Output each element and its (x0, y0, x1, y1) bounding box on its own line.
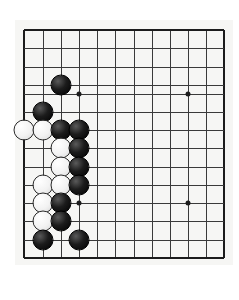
go-board-grid[interactable] (15, 20, 233, 265)
white-stone[interactable] (14, 120, 35, 141)
caption-row: 问题 99 (0, 262, 239, 300)
board-line-vertical-10 (188, 30, 189, 258)
board-line-horizontal-3 (24, 67, 224, 68)
black-stone[interactable] (51, 75, 72, 96)
go-board-panel[interactable] (15, 20, 233, 265)
board-line-vertical-12 (223, 30, 225, 258)
board-line-vertical-5 (97, 30, 98, 258)
black-stone[interactable] (69, 138, 90, 159)
board-line-horizontal-13 (24, 240, 224, 241)
black-stone[interactable] (69, 175, 90, 196)
board-line-horizontal-2 (24, 48, 224, 49)
star-point-lower-right (186, 201, 191, 206)
board-line-vertical-11 (206, 30, 207, 258)
star-point-upper-right (186, 92, 191, 97)
board-line-horizontal-14 (24, 257, 224, 259)
board-line-horizontal-6 (24, 112, 224, 113)
board-line-vertical-8 (152, 30, 153, 258)
black-stone[interactable] (33, 230, 54, 251)
board-line-vertical-7 (134, 30, 135, 258)
board-line-vertical-9 (170, 30, 171, 258)
star-point-upper-left (77, 92, 82, 97)
black-stone[interactable] (69, 230, 90, 251)
go-problem-app: 问题 99 (0, 0, 239, 300)
black-stone[interactable] (51, 211, 72, 232)
board-line-vertical-6 (115, 30, 116, 258)
board-line-vertical-1 (23, 30, 25, 258)
star-point-lower-left (77, 201, 82, 206)
board-line-horizontal-1 (24, 29, 224, 31)
board-line-horizontal-5 (24, 94, 224, 95)
